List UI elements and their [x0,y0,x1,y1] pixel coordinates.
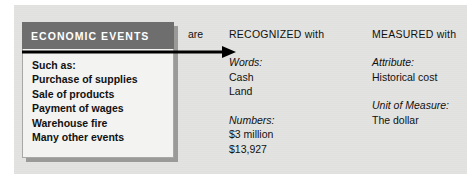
events-box-body: Such as: Purchase of supplies Sale of pr… [22,49,174,158]
group-item: Land [229,84,359,99]
group-item: The dollar [372,113,472,128]
group-unit-of-measure: Unit of Measure: The dollar [372,98,472,127]
group-item: Cash [229,70,359,85]
list-item: Purchase of supplies [32,72,173,86]
economic-events-diagram: ECONOMIC EVENTS Such as: Purchase of sup… [0,0,474,180]
list-item: Many other events [32,130,173,144]
events-list: Such as: Purchase of supplies Sale of pr… [32,58,173,144]
list-item: Warehouse fire [32,116,173,130]
group-numbers: Numbers: $3 million $13,927 [229,113,359,157]
group-item: $3 million [229,127,359,142]
group-item: $13,927 [229,142,359,157]
list-item: Sale of products [32,87,173,101]
group-label: Words: [229,55,359,70]
list-item: Payment of wages [32,101,173,115]
group-item: Historical cost [372,70,472,85]
group-label: Attribute: [372,55,472,70]
group-words: Words: Cash Land [229,55,359,99]
group-label: Unit of Measure: [372,98,472,113]
connector-label: are [188,28,203,40]
events-box-header-label: ECONOMIC EVENTS [31,30,149,42]
group-attribute: Attribute: Historical cost [372,55,472,84]
group-label: Numbers: [229,113,359,128]
events-box-header: ECONOMIC EVENTS [22,22,174,49]
column-title: RECOGNIZED with [229,28,359,40]
column-recognized: RECOGNIZED with Words: Cash Land Numbers… [229,28,359,156]
list-item: Such as: [32,58,173,72]
column-title: MEASURED with [372,28,472,40]
column-measured: MEASURED with Attribute: Historical cost… [372,28,472,127]
